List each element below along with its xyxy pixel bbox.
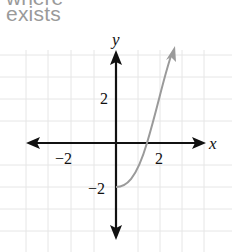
coordinate-plane-graph: y x −2 2 2 −2 [0, 0, 232, 252]
curve-arrow-icon [166, 46, 176, 62]
x-tick-neg2: −2 [55, 150, 72, 167]
function-curve [116, 46, 176, 187]
y-tick-neg2: −2 [88, 180, 105, 197]
x-tick-2: 2 [155, 150, 163, 167]
y-axis [110, 50, 122, 240]
y-tick-2: 2 [100, 90, 108, 107]
x-axis-label: x [208, 134, 217, 153]
y-axis-label: y [110, 30, 120, 49]
